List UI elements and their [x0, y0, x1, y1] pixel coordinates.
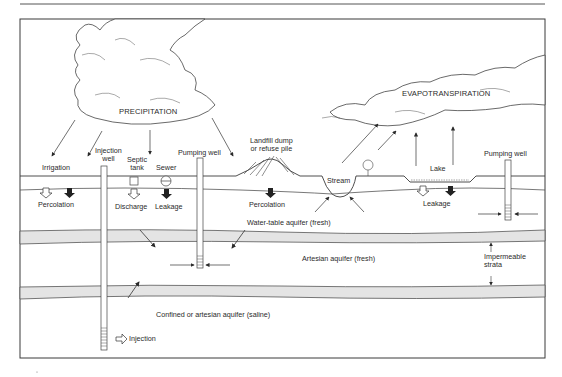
artesian-aquifer-label: Artesian aquifer (fresh)	[302, 255, 375, 263]
solid-down-arrow-icon	[445, 186, 456, 196]
lake-leakage-label: Leakage	[423, 200, 451, 208]
tree-icon	[363, 160, 373, 176]
solid-down-arrow-icon	[161, 189, 172, 199]
percolation-left-label: Percolation	[38, 201, 74, 209]
injection-label: Injection	[129, 335, 156, 343]
confined-aquifer-label: Confined or artesian aquifer (saline)	[156, 311, 270, 319]
water-table-line	[20, 188, 545, 194]
hollow-down-arrow-icon	[128, 189, 140, 199]
impermeable-strata-line2: strata	[484, 261, 526, 269]
discharge-label: Discharge	[115, 203, 147, 211]
water-table-confining-band	[20, 230, 545, 244]
landfill-label-line2: or refuse pile	[250, 145, 293, 153]
water-table-aquifer-label: Water-table aquifer (fresh)	[247, 219, 331, 227]
irrigation-label: Irrigation	[42, 164, 70, 172]
sewer-label: Sewer	[156, 164, 176, 172]
square-tank-icon	[130, 177, 138, 185]
hollow-down-arrow-icon	[417, 186, 429, 196]
precipitation-label: PRECIPITATION	[119, 108, 177, 116]
injection-well-label-line2: well	[95, 155, 122, 163]
stream-label: Stream	[327, 177, 350, 185]
hollow-right-arrow-icon	[116, 334, 127, 344]
impermeable-strata-label: Impermeable strata	[484, 253, 526, 269]
lake-label: Lake	[430, 165, 446, 173]
injection-well-label: Injection well	[95, 147, 122, 163]
septic-tank-label-line2: tank	[127, 164, 147, 172]
percolation-landfill-label: Percolation	[249, 201, 285, 209]
sewer-leakage-label: Leakage	[155, 203, 183, 211]
left-pumping-well-label: Pumping well	[178, 149, 221, 157]
circle-pipe-icon	[161, 176, 171, 186]
diagram-canvas	[0, 0, 562, 377]
solid-down-arrow-icon	[265, 188, 276, 198]
right-pumping-well-label: Pumping well	[484, 150, 527, 158]
evapotranspiration-label: EVAPOTRANSPIRATION	[402, 90, 490, 98]
landfill-label: Landfill dump or refuse pile	[250, 137, 293, 153]
septic-tank-label: Septic tank	[127, 156, 147, 172]
left-pumping-well-casing	[197, 158, 203, 268]
solid-down-arrow-icon	[64, 188, 75, 198]
injection-well-casing	[101, 166, 107, 350]
lower-confining-band	[20, 285, 545, 299]
